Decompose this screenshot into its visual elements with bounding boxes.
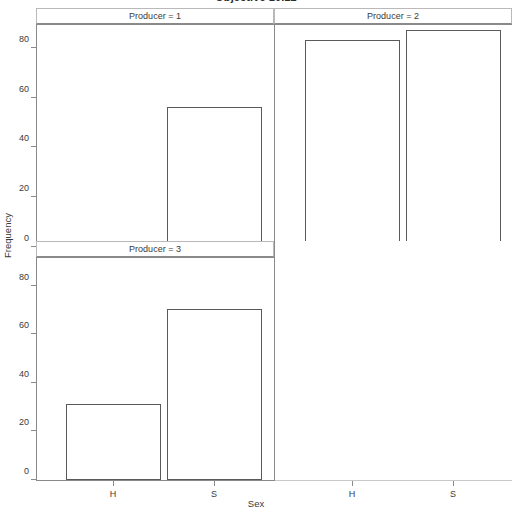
x-tick-label-H: H <box>332 489 372 499</box>
y-tick-label-20: 20 <box>3 184 29 193</box>
panel-plot-empty: H S <box>274 241 512 481</box>
bar-producer-2-S <box>406 30 501 248</box>
panel-empty-bottom-right: H S <box>274 241 512 481</box>
y-tick-60 <box>31 97 36 98</box>
x-axis-label: Sex <box>0 498 512 509</box>
x-tick-label-S: S <box>194 489 234 499</box>
x-tick-H <box>352 481 353 486</box>
y-tick-label-20: 20 <box>3 418 29 427</box>
y-tick-40 <box>31 382 36 383</box>
y-tick-label-60: 60 <box>3 321 29 330</box>
y-tick-label-40: 40 <box>3 134 29 143</box>
y-tick-label-60: 60 <box>3 85 29 94</box>
bar-producer-2-H <box>305 40 400 248</box>
y-tick-80 <box>31 47 36 48</box>
x-tick-S <box>214 481 215 486</box>
axis-line-left <box>36 25 37 248</box>
panel-plot-producer-2 <box>274 24 512 248</box>
panel-header-producer-3: Producer = 3 <box>36 241 274 257</box>
panel-plot-producer-1: 0 20 40 60 80 <box>36 24 274 248</box>
y-tick-label-0: 0 <box>3 234 29 243</box>
y-tick-20 <box>31 196 36 197</box>
bar-producer-3-S <box>167 309 262 481</box>
axis-line-left <box>36 258 37 481</box>
bar-producer-3-H <box>66 404 161 480</box>
panel-plot-producer-3: 0 20 40 60 80 H S <box>36 257 274 481</box>
panel-header-producer-2: Producer = 2 <box>274 8 512 24</box>
chart-title: Objective 10.12 <box>0 0 512 3</box>
y-tick-label-0: 0 <box>3 467 29 476</box>
bar-producer-1-S <box>167 107 262 247</box>
y-tick-0 <box>31 479 36 480</box>
y-tick-20 <box>31 430 36 431</box>
x-tick-label-S: S <box>433 489 473 499</box>
x-tick-H <box>113 481 114 486</box>
y-tick-label-80: 80 <box>3 35 29 44</box>
y-tick-80 <box>31 285 36 286</box>
y-tick-60 <box>31 333 36 334</box>
panel-bar-chart-figure: Objective 10.12 Frequency Sex Producer =… <box>0 0 512 517</box>
y-tick-40 <box>31 146 36 147</box>
panel-producer-3: Producer = 3 0 20 40 60 80 H S <box>36 241 274 481</box>
x-tick-label-H: H <box>93 489 133 499</box>
panel-producer-1: Producer = 1 0 20 40 60 80 <box>36 8 274 248</box>
axis-line-bottom <box>36 480 274 481</box>
panel-producer-2: Producer = 2 <box>274 8 512 248</box>
y-tick-label-80: 80 <box>3 273 29 282</box>
y-tick-label-40: 40 <box>3 370 29 379</box>
panel-header-producer-1: Producer = 1 <box>36 8 274 24</box>
x-tick-S <box>453 481 454 486</box>
axis-line-bottom <box>275 480 512 481</box>
